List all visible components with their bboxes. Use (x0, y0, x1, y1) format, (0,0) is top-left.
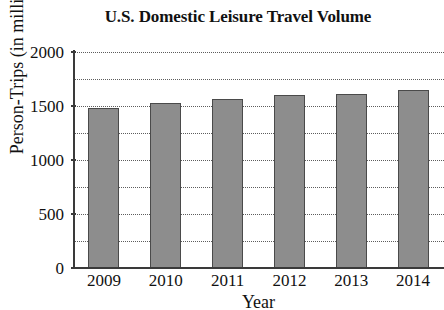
x-tick-label: 2014 (382, 271, 444, 291)
plot-area (73, 52, 444, 268)
y-tick-label: 500 (0, 206, 64, 223)
gridline (73, 187, 444, 188)
y-tick-label: 1000 (0, 152, 64, 169)
bar (336, 94, 367, 268)
bar (274, 95, 305, 268)
y-tick-label: 0 (0, 260, 64, 277)
x-tick-label: 2013 (320, 271, 382, 291)
x-tick-label: 2012 (259, 271, 321, 291)
gridline (73, 160, 444, 161)
chart-title: U.S. Domestic Leisure Travel Volume (0, 7, 444, 27)
x-tick-label: 2010 (135, 271, 197, 291)
gridline (73, 79, 444, 80)
y-tick-label: 1500 (0, 98, 64, 115)
bar (212, 99, 243, 268)
gridline (73, 133, 444, 134)
bar (150, 103, 181, 268)
bar (88, 108, 119, 268)
y-tick-mark (71, 159, 76, 161)
gridline (73, 106, 444, 107)
y-tick-mark (71, 213, 76, 215)
x-tick-label: 2011 (197, 271, 259, 291)
gridline (73, 241, 444, 242)
y-tick-mark (71, 105, 76, 107)
x-axis-line (73, 267, 444, 269)
bar-chart: U.S. Domestic Leisure Travel Volume Pers… (0, 0, 444, 310)
y-tick-label: 2000 (0, 44, 64, 61)
gridline (73, 52, 444, 53)
y-tick-mark (71, 51, 76, 53)
bar (398, 90, 429, 268)
x-tick-label: 2009 (73, 271, 135, 291)
x-axis-title: Year (73, 292, 444, 310)
y-tick-mark (71, 267, 76, 269)
gridline (73, 214, 444, 215)
